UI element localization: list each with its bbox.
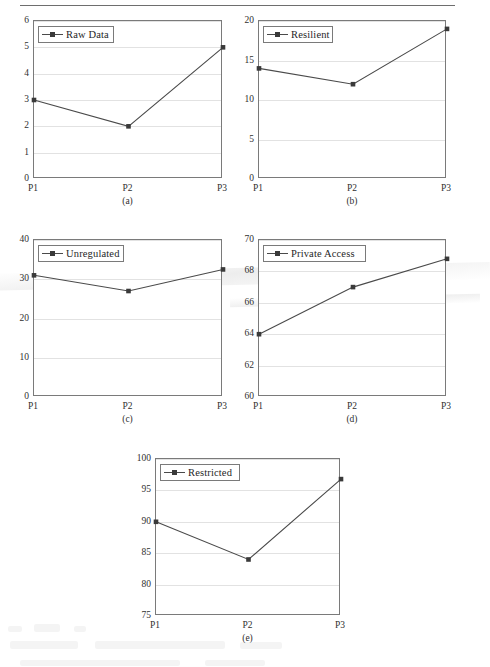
- x-axis-tick-label: P1: [238, 183, 278, 194]
- x-axis-tick-label: P3: [426, 183, 466, 194]
- legend-c[interactable]: Unregulated: [38, 245, 124, 262]
- scan-artifact: [74, 626, 86, 632]
- x-axis-tick-label: P3: [426, 401, 466, 412]
- y-axis-tick-label: 10: [10, 352, 29, 362]
- y-axis-tick-label: 0: [10, 391, 29, 401]
- series-c: [34, 240, 223, 397]
- y-axis-tick-label: 20: [235, 15, 254, 25]
- panel-caption-b: (b): [258, 196, 446, 207]
- y-axis-tick-label: 2: [10, 120, 29, 130]
- scan-artifact: [10, 641, 78, 649]
- x-axis-tick-label: P3: [320, 620, 360, 631]
- data-point-marker: [32, 273, 37, 278]
- y-axis-tick-label: 40: [10, 234, 29, 244]
- data-point-marker: [32, 98, 37, 103]
- data-point-marker: [257, 332, 262, 337]
- y-axis-tick-label: 15: [235, 55, 254, 65]
- y-axis-tick-label: 80: [132, 579, 151, 589]
- series-line: [156, 479, 341, 559]
- legend-a[interactable]: Raw Data: [38, 26, 114, 43]
- data-point-marker: [351, 285, 356, 290]
- plot-area-c: [33, 239, 222, 396]
- legend-marker-icon: [164, 468, 185, 477]
- plot-area-e: [155, 458, 340, 615]
- x-axis-tick-label: P1: [135, 620, 175, 631]
- y-axis-tick-label: 0: [235, 173, 254, 183]
- legend-label: Unregulated: [66, 248, 120, 259]
- data-point-marker: [257, 66, 262, 71]
- x-axis-tick-label: P2: [332, 401, 372, 412]
- y-axis-tick-label: 60: [235, 391, 254, 401]
- y-axis-tick-label: 75: [132, 610, 151, 620]
- x-axis-tick-label: P2: [108, 183, 148, 194]
- y-axis-tick-label: 5: [10, 41, 29, 51]
- y-axis-tick-label: 95: [132, 484, 151, 494]
- legend-label: Private Access: [291, 248, 355, 259]
- data-point-marker: [445, 27, 450, 32]
- data-point-marker: [154, 520, 159, 525]
- y-axis-tick-label: 85: [132, 547, 151, 557]
- series-e: [156, 459, 341, 616]
- y-axis-tick-label: 100: [132, 453, 151, 463]
- legend-marker-icon: [267, 249, 288, 258]
- data-point-marker: [445, 257, 450, 262]
- series-line: [259, 259, 447, 334]
- y-axis-tick-label: 5: [235, 134, 254, 144]
- legend-b[interactable]: Resilient: [263, 26, 333, 43]
- x-axis-tick-label: P3: [202, 401, 242, 412]
- scan-artifact: [34, 624, 60, 632]
- y-axis-tick-label: 64: [235, 328, 254, 338]
- legend-e[interactable]: Restricted: [160, 464, 240, 481]
- data-point-marker: [221, 45, 226, 50]
- legend-marker-icon: [42, 30, 63, 39]
- legend-marker-icon: [42, 249, 63, 258]
- data-point-marker: [221, 267, 226, 272]
- y-axis-tick-label: 3: [10, 94, 29, 104]
- plot-area-a: [33, 20, 222, 178]
- y-axis-tick-label: 66: [235, 297, 254, 307]
- y-axis-tick-label: 10: [235, 94, 254, 104]
- legend-label: Raw Data: [66, 29, 109, 40]
- legend-label: Restricted: [188, 467, 232, 478]
- x-axis-tick-label: P1: [238, 401, 278, 412]
- y-axis-tick-label: 30: [10, 273, 29, 283]
- data-point-marker: [126, 124, 131, 129]
- x-axis-tick-label: P2: [108, 401, 148, 412]
- series-line: [34, 269, 223, 291]
- data-point-marker: [246, 557, 251, 562]
- scan-artifact: [205, 660, 265, 666]
- legend-label: Resilient: [291, 29, 330, 40]
- y-axis-tick-label: 4: [10, 68, 29, 78]
- series-line: [34, 47, 223, 126]
- data-point-marker: [351, 82, 356, 87]
- panel-caption-c: (c): [33, 414, 222, 425]
- y-axis-tick-label: 1: [10, 147, 29, 157]
- data-point-marker: [339, 477, 344, 482]
- data-point-marker: [126, 289, 131, 294]
- plot-area-d: [258, 239, 446, 396]
- y-axis-tick-label: 70: [235, 234, 254, 244]
- y-axis-tick-label: 20: [10, 313, 29, 323]
- page-header-rule: [20, 5, 455, 6]
- scan-artifact: [20, 660, 180, 666]
- y-axis-tick-label: 62: [235, 360, 254, 370]
- x-axis-tick-label: P3: [202, 183, 242, 194]
- panel-caption-d: (d): [258, 414, 446, 425]
- y-axis-tick-label: 68: [235, 265, 254, 275]
- panel-caption-a: (a): [33, 196, 222, 207]
- series-b: [259, 21, 447, 179]
- y-axis-tick-label: 90: [132, 516, 151, 526]
- scan-artifact: [8, 626, 22, 632]
- y-axis-tick-label: 0: [10, 173, 29, 183]
- plot-area-b: [258, 20, 446, 178]
- y-axis-tick-label: 6: [10, 15, 29, 25]
- legend-d[interactable]: Private Access: [263, 245, 366, 262]
- panel-caption-e: (e): [155, 633, 340, 644]
- series-a: [34, 21, 223, 179]
- legend-marker-icon: [267, 30, 288, 39]
- series-d: [259, 240, 447, 397]
- x-axis-tick-label: P2: [228, 620, 268, 631]
- x-axis-tick-label: P1: [13, 183, 53, 194]
- x-axis-tick-label: P2: [332, 183, 372, 194]
- x-axis-tick-label: P1: [13, 401, 53, 412]
